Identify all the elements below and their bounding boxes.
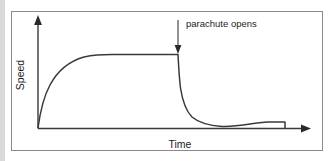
x-axis-label: Time bbox=[169, 138, 192, 150]
y-axis-label: Speed bbox=[14, 60, 26, 91]
parachute-opens-label: parachute opens bbox=[186, 18, 257, 29]
speed-time-chart: parachute opens Time Speed bbox=[0, 0, 336, 161]
parachute-arrow-head-icon bbox=[175, 45, 182, 54]
x-axis-arrow-icon bbox=[301, 125, 311, 133]
y-axis-arrow-icon bbox=[34, 15, 42, 25]
speed-curve bbox=[38, 55, 285, 128]
figure-root: parachute opens Time Speed bbox=[0, 0, 336, 161]
